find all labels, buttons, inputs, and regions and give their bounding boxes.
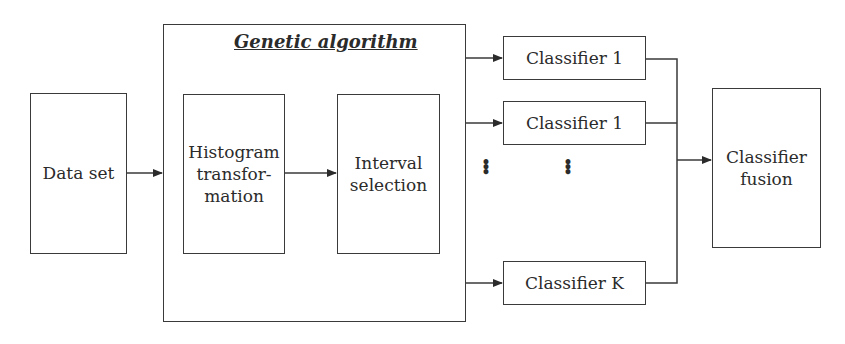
classifier-fusion-box: Classifier fusion <box>712 88 821 248</box>
histogram-line-3: mation <box>188 185 279 207</box>
ellipsis-classifiers: ••• <box>563 160 573 175</box>
ellipsis-arrows: ••• <box>481 160 491 175</box>
data-set-box: Data set <box>30 93 127 254</box>
interval-line-1: Interval <box>350 152 427 174</box>
interval-selection-box: Interval selection <box>337 94 440 254</box>
classifier-box-k: Classifier K <box>503 261 646 305</box>
histogram-transformation-box: Histogram transfor- mation <box>183 94 285 254</box>
connector-classifier-1 <box>645 59 677 283</box>
interval-line-2: selection <box>350 174 427 196</box>
histogram-line-1: Histogram <box>188 141 279 163</box>
data-set-label: Data set <box>43 162 115 184</box>
histogram-line-2: transfor- <box>188 163 279 185</box>
classifier-box-2: Classifier 1 <box>503 101 646 145</box>
genetic-algorithm-title: Genetic algorithm <box>234 31 418 52</box>
fusion-line-2: fusion <box>726 168 807 190</box>
classifier-label: Classifier K <box>525 272 624 294</box>
fusion-line-1: Classifier <box>726 146 807 168</box>
classifier-label: Classifier 1 <box>526 47 623 69</box>
classifier-box-1: Classifier 1 <box>503 36 646 80</box>
classifier-label: Classifier 1 <box>526 112 623 134</box>
